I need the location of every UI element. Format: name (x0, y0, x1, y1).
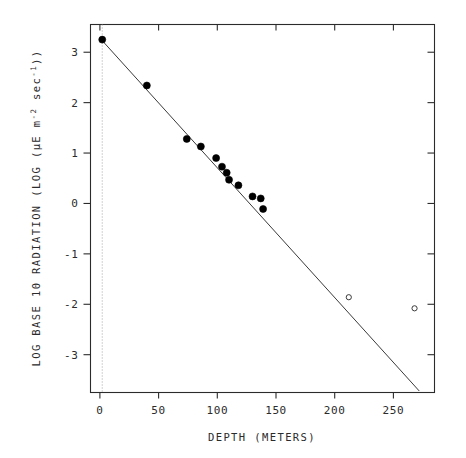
y-axis-title-exponent-1: -2 (29, 108, 38, 120)
x-axis-tick-labels: 050100150200250 (96, 404, 404, 417)
y-axis-title-exponent-2: -1 (29, 65, 38, 77)
x-tick-label: 100 (206, 404, 228, 417)
data-point (226, 176, 233, 183)
y-tick-label: 1 (71, 147, 78, 160)
data-point (412, 306, 417, 311)
x-tick-label: 0 (96, 404, 103, 417)
data-point (260, 206, 267, 213)
data-point (183, 135, 190, 142)
x-tick-label: 150 (265, 404, 287, 417)
data-point (249, 193, 256, 200)
y-tick-label: -3 (64, 349, 78, 362)
data-point (143, 82, 150, 89)
x-tick-label: 50 (151, 404, 165, 417)
y-axis-title-mid: sec (30, 77, 42, 108)
data-point (99, 36, 106, 43)
x-tick-label: 250 (383, 404, 405, 417)
data-point (223, 169, 230, 176)
y-tick-label: 0 (71, 197, 78, 210)
y-tick-label: 3 (71, 46, 78, 59)
y-tick-label: -2 (64, 298, 78, 311)
x-axis-ticks (100, 25, 394, 399)
y-tick-label: -1 (64, 248, 78, 261)
y-axis-title-tail: )) (30, 49, 42, 64)
data-point (346, 295, 351, 300)
x-axis-title: DEPTH (METERS) (208, 431, 316, 443)
data-points-open (346, 295, 417, 311)
data-point (218, 163, 225, 170)
data-point (197, 143, 204, 150)
data-point (235, 182, 242, 189)
data-point (257, 195, 264, 202)
y-axis-ticks (84, 52, 435, 354)
y-axis-title: LOG BASE 10 RADIATION (LOG (µE m-2 sec-1… (29, 49, 42, 366)
data-point (213, 155, 220, 162)
chart-figure: 050100150200250 3210-1-2-3 DEPTH (METERS… (0, 0, 466, 458)
y-axis-title-units: µE m (30, 119, 42, 150)
regression-fit-line (102, 41, 419, 391)
x-tick-label: 200 (324, 404, 346, 417)
scatter-plot-svg: 050100150200250 3210-1-2-3 DEPTH (METERS… (0, 0, 466, 458)
y-tick-label: 2 (71, 97, 78, 110)
y-axis-title-lead: LOG BASE 10 RADIATION (LOG ( (30, 150, 42, 366)
data-points-filled (99, 36, 267, 212)
y-axis-tick-labels: 3210-1-2-3 (64, 46, 78, 361)
